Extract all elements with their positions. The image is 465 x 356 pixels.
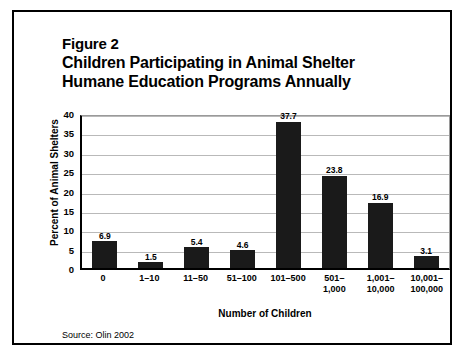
y-axis-tick-label: 20 [63,188,74,198]
figure-title-line-1: Children Participating in Animal Shelter [62,53,442,72]
bar[interactable]: 3.1 [414,256,439,268]
bar[interactable]: 5.4 [184,247,209,268]
bar-value-label: 6.9 [99,232,111,241]
bar[interactable]: 4.6 [230,250,255,268]
x-axis-tick-label: 1–10 [126,273,172,295]
y-axis-tick-label: 5 [69,246,74,256]
figure-title-block: Figure 2 Children Participating in Anima… [62,34,442,91]
bar[interactable]: 23.8 [322,176,347,268]
y-axis-tick-label: 10 [63,227,74,237]
bar-slot: 3.1 [403,116,449,268]
bar[interactable]: 16.9 [368,203,393,268]
bar-value-label: 4.6 [237,241,249,250]
y-axis-tick-label: 25 [63,168,74,178]
bar[interactable]: 37.7 [276,122,301,268]
y-axis-tick-label: 35 [63,130,74,140]
y-axis-tick-label: 0 [69,265,74,275]
bar-slot: 16.9 [357,116,403,268]
x-axis-title: Number of Children [80,308,450,319]
figure-border: Figure 2 Children Participating in Anima… [12,10,452,345]
bar-value-label: 1.5 [145,253,157,262]
y-axis-tick-label: 30 [63,149,74,159]
bar-value-label: 16.9 [372,193,389,202]
y-axis-tick-label: 40 [63,110,74,120]
x-axis-tick-label: 501– 1,000 [311,273,357,295]
bar[interactable]: 1.5 [138,262,163,268]
bar-value-label: 23.8 [326,166,343,175]
bar-value-label: 5.4 [191,238,203,247]
y-axis-tick-label: 15 [63,207,74,217]
bar-slot: 4.6 [220,116,266,268]
bar-slot: 5.4 [174,116,220,268]
x-axis-tick-label: 11–50 [173,273,219,295]
bar-slot: 1.5 [128,116,174,268]
x-axis-tick-label: 10,001– 100,000 [404,273,450,295]
bar-value-label: 37.7 [280,112,297,121]
x-axis-tick-label: 51–100 [219,273,265,295]
x-axis-tick-label: 101–500 [265,273,311,295]
y-axis-tick-labels: 0510152025303540 [54,115,74,270]
source-note: Source: Olin 2002 [62,330,134,340]
bar[interactable]: 6.9 [92,241,117,268]
bar-chart: Percent of Animal Shelters 0510152025303… [32,115,452,290]
x-axis-tick-label: 0 [80,273,126,295]
figure-title-line-2: Humane Education Programs Annually [62,72,442,91]
bar-value-label: 3.1 [420,247,432,256]
bars-container: 6.91.55.44.637.723.816.93.1 [82,116,449,268]
x-axis-tick-labels: 01–1011–5051–100101–500501– 1,0001,001– … [80,273,450,295]
bar-slot: 23.8 [311,116,357,268]
bar-slot: 6.9 [82,116,128,268]
x-axis-tick-label: 1,001– 10,000 [358,273,404,295]
bar-slot: 37.7 [266,116,312,268]
figure-number-label: Figure 2 [62,34,442,53]
plot-area: 6.91.55.44.637.723.816.93.1 [80,115,450,270]
